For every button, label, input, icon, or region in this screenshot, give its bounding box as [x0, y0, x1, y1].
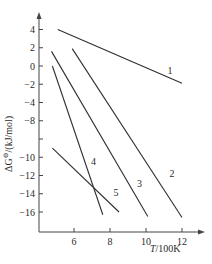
y-tick-label: −16 — [19, 207, 35, 218]
series-label-3: 3 — [137, 178, 142, 189]
y-tick-label: 2 — [30, 42, 35, 53]
y-tick-label: 0 — [30, 61, 35, 72]
gibbs-energy-temperature-chart: 681012 420−2−4−8−10−12−14−16 12345 T/100… — [0, 0, 212, 264]
series-label-5: 5 — [114, 187, 119, 198]
y-tick-label: −12 — [19, 170, 35, 181]
series-line-5 — [52, 148, 119, 212]
series-labels: 12345 — [91, 65, 174, 198]
y-tick-label: −10 — [19, 152, 35, 163]
x-tick-label: 8 — [108, 236, 113, 247]
y-axis-title: ΔG⊖/(kJ/mol) — [2, 116, 15, 172]
y-tick-label: −8 — [24, 115, 35, 126]
x-axis-title-unit: /100K — [156, 243, 182, 254]
y-axis-arrow-icon — [37, 12, 42, 19]
series-label-2: 2 — [169, 168, 174, 179]
series-line-2 — [72, 49, 182, 218]
y-axis-title-rest: /(kJ/mol) — [3, 116, 15, 153]
x-axis-title: T/100K — [150, 243, 181, 254]
y-tick-label: −2 — [24, 79, 35, 90]
y-tick-label: −14 — [19, 188, 35, 199]
x-tick-label: 6 — [72, 236, 77, 247]
series-line-3 — [52, 51, 148, 216]
series-label-4: 4 — [91, 156, 96, 167]
series-label-1: 1 — [168, 65, 173, 76]
y-tick-label: −4 — [24, 97, 35, 108]
series-line-1 — [58, 30, 182, 84]
y-axis-title-main: ΔG — [3, 158, 14, 172]
x-axis-arrow-icon — [198, 230, 205, 235]
y-tick-label: 4 — [30, 24, 35, 35]
series-line-4 — [52, 66, 102, 215]
